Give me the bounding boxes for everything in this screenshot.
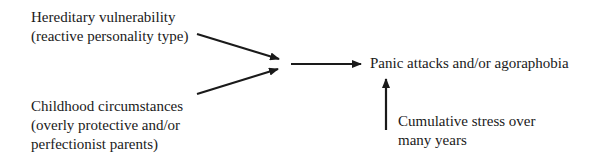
node-line: Childhood circumstances [31, 97, 183, 116]
node-cumulative-stress: Cumulative stress over many years [398, 112, 535, 150]
node-hereditary-vulnerability: Hereditary vulnerability (reactive perso… [31, 8, 188, 46]
node-line: perfectionist parents) [31, 135, 183, 154]
node-line: Hereditary vulnerability [31, 8, 188, 27]
arrow-hereditary-to-junction [197, 34, 279, 59]
node-panic-attacks: Panic attacks and/or agoraphobia [370, 54, 569, 73]
node-childhood-circumstances: Childhood circumstances (overly protecti… [31, 97, 183, 154]
node-line: many years [398, 131, 535, 150]
arrow-childhood-to-junction [197, 69, 278, 94]
node-line: Cumulative stress over [398, 112, 535, 131]
node-line: (reactive personality type) [31, 27, 188, 46]
node-line: (overly protective and/or [31, 116, 183, 135]
node-line: Panic attacks and/or agoraphobia [370, 54, 569, 73]
